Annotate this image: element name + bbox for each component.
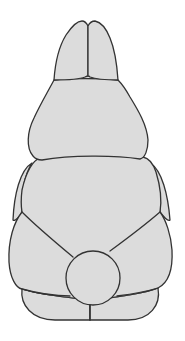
right-ear <box>88 21 118 80</box>
rabbit-illustration <box>0 0 185 341</box>
head <box>28 79 148 161</box>
left-ear <box>54 21 88 80</box>
rabbit-svg <box>0 0 185 341</box>
tail <box>66 251 120 305</box>
